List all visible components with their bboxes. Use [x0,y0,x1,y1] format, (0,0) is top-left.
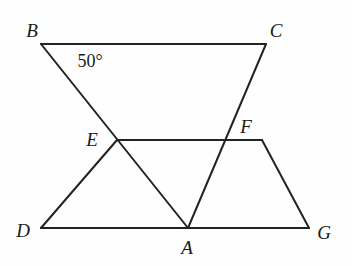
segments-group [41,44,309,228]
vertex-label-E: E [86,130,98,149]
vertex-label-C: C [270,21,283,40]
segment-HG [262,140,309,228]
angle-measure-label-angle-B: 50° [77,52,102,70]
vertex-label-D: D [16,221,30,240]
geometry-diagram-canvas [0,0,352,266]
vertex-label-G: G [317,223,331,242]
vertex-label-B: B [26,21,38,40]
vertex-label-F: F [240,117,252,136]
segment-BA [41,44,188,228]
geometry-figure: BCEFDAG50° [0,0,352,266]
segment-ED [41,140,117,228]
segment-CA [188,44,266,228]
vertex-label-A: A [181,238,193,257]
